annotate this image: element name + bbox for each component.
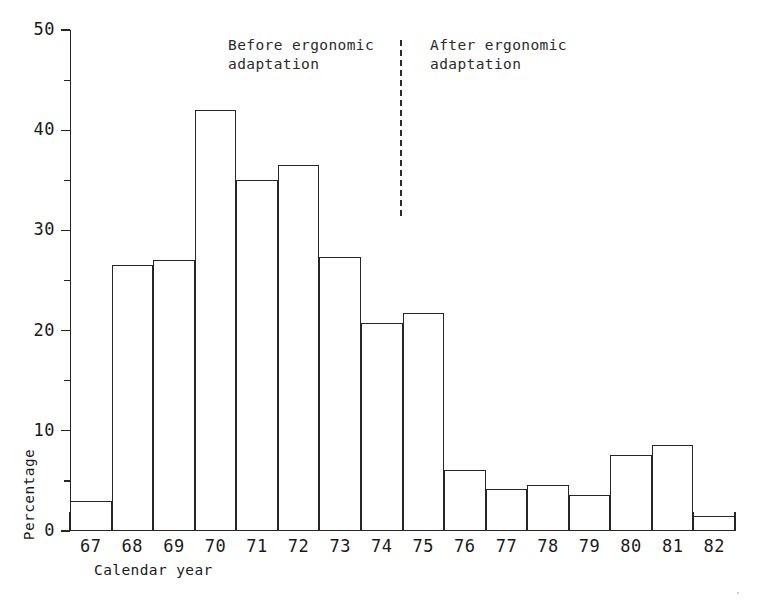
x-tick-label: 79 (569, 537, 611, 556)
y-tick-minor (64, 280, 70, 281)
y-tick-major (61, 430, 70, 431)
x-tick-label: 77 (485, 537, 527, 556)
x-tick-label: 70 (194, 537, 236, 556)
bar (486, 489, 528, 531)
bar (153, 260, 195, 531)
y-tick-major (61, 330, 70, 331)
y-tick-major (61, 230, 70, 231)
x-tick-label: 74 (361, 537, 403, 556)
bar (444, 470, 486, 531)
x-tick-label: 68 (111, 537, 153, 556)
y-tick-label: 30 (15, 221, 55, 238)
bar (403, 313, 445, 531)
x-tick-label: 73 (319, 537, 361, 556)
x-tick-label: 78 (527, 537, 569, 556)
y-tick-label: 50 (15, 21, 55, 38)
bar (652, 445, 694, 531)
y-tick-label: 20 (15, 322, 55, 339)
bar (610, 455, 652, 531)
x-tick-label: 82 (693, 537, 735, 556)
x-tick-label: 67 (70, 537, 112, 556)
annotation-before-ergonomic-adaptation: Before ergonomic adaptation (228, 36, 374, 74)
period-divider-dashed-line (400, 40, 402, 216)
scan-speckle-artifact (737, 592, 739, 594)
y-tick-minor (64, 80, 70, 81)
x-tick-label: 69 (153, 537, 195, 556)
bar (569, 495, 611, 531)
x-axis-title: Calendar year (94, 562, 213, 578)
x-tick-label: 81 (652, 537, 694, 556)
x-tick-label: 75 (402, 537, 444, 556)
y-axis-line (70, 30, 71, 531)
y-tick-label: 10 (15, 422, 55, 439)
bar (112, 265, 154, 531)
histogram-plot: 01020304050 6768697071727374757677787980… (0, 0, 757, 605)
bar (278, 165, 320, 531)
x-tick-label: 76 (444, 537, 486, 556)
bar (195, 110, 237, 531)
bar (693, 516, 735, 531)
y-tick-major (61, 130, 70, 131)
y-tick-minor (64, 180, 70, 181)
y-tick-major (61, 29, 70, 30)
x-tick-label: 72 (278, 537, 320, 556)
bar (527, 485, 569, 531)
bar (361, 323, 403, 531)
y-tick-minor (64, 480, 70, 481)
bar (236, 180, 278, 531)
x-tick-label: 71 (236, 537, 278, 556)
y-axis-title: Percentage (22, 440, 37, 550)
bar (70, 501, 112, 531)
y-tick-minor (64, 380, 70, 381)
y-tick-label: 40 (15, 121, 55, 138)
bar (319, 257, 361, 531)
x-tick-label: 80 (610, 537, 652, 556)
annotation-after-ergonomic-adaptation: After ergonomic adaptation (430, 36, 567, 74)
chart-page: 01020304050 6768697071727374757677787980… (0, 0, 757, 605)
